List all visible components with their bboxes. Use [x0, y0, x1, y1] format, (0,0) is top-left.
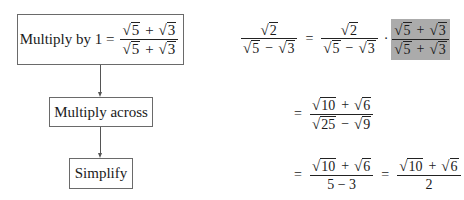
radicand: 6 [362, 158, 371, 174]
step-label: Simplify [75, 165, 128, 182]
step-label: Multiply across [54, 104, 148, 121]
radical-sign: √ [122, 41, 130, 57]
radical-sign: √ [354, 97, 362, 113]
original-fraction: √2 √5 − √3 [241, 22, 297, 57]
square-root: √3 [278, 40, 295, 56]
equals-sign: = [294, 167, 302, 183]
square-root: √10 [312, 97, 336, 113]
numerator: √2 [339, 22, 360, 38]
operator: + [145, 40, 153, 58]
operator: + [341, 157, 349, 175]
radical-sign: √ [429, 22, 437, 38]
denominator: √5 + √3 [120, 40, 178, 58]
square-root: √3 [159, 22, 177, 38]
radicand: 5 [403, 41, 412, 57]
operator: + [417, 21, 425, 39]
square-root: √2 [261, 22, 278, 38]
radicand: 5 [403, 22, 412, 38]
square-root: √6 [354, 97, 371, 113]
step-multiply-by-one: Multiply by 1 = √5 + √3 √5 + √3 [17, 14, 184, 65]
square-root: √9 [354, 116, 371, 132]
radical-sign: √ [159, 41, 167, 57]
radicand: 10 [320, 158, 336, 174]
radicand: 5 [131, 22, 141, 38]
radicand: 3 [167, 22, 177, 38]
equals-sign: = [305, 31, 313, 47]
radicand: 2 [349, 22, 358, 38]
numerator: √10 + √6 [310, 96, 373, 114]
operator: − [341, 115, 349, 133]
square-root: √5 [122, 22, 140, 38]
numerator: √10 + √6 [397, 157, 460, 175]
simplified-fraction: √10 + √6 5 − 3 [310, 157, 373, 194]
radicand: 3 [367, 40, 376, 56]
step-label: Multiply by 1 = [20, 31, 115, 48]
radical-sign: √ [312, 97, 320, 113]
radical-sign: √ [399, 158, 407, 174]
denominator: √5 − √3 [241, 39, 297, 57]
square-root: √10 [399, 158, 423, 174]
operator: + [341, 96, 349, 114]
radicand: 6 [450, 158, 459, 174]
equals-sign: = [294, 106, 302, 122]
radical-sign: √ [394, 22, 402, 38]
connector-line [100, 65, 101, 93]
radicand: 3 [438, 41, 447, 57]
radical-sign: √ [354, 158, 362, 174]
radicand: 10 [407, 158, 423, 174]
operator: + [417, 40, 425, 58]
radicand: 2 [269, 22, 278, 38]
square-root: √5 [394, 41, 411, 57]
final-fraction: √10 + √6 2 [397, 157, 460, 194]
square-root: √2 [341, 22, 358, 38]
square-root: √5 [323, 40, 340, 56]
radical-sign: √ [312, 158, 320, 174]
operator: − [346, 39, 354, 57]
numerator: √5 + √3 [120, 21, 178, 39]
radical-sign: √ [122, 22, 130, 38]
square-root: √3 [429, 41, 446, 57]
equation-line-2: = √10 + √6 √25 − √9 [289, 92, 376, 136]
step-simplify: Simplify [69, 158, 133, 189]
radical-sign: √ [312, 116, 320, 132]
rhs-fraction: √2 √5 − √3 [321, 22, 377, 57]
radical-sign: √ [354, 116, 362, 132]
radicand: 6 [362, 97, 371, 113]
radical-sign: √ [429, 41, 437, 57]
connector-line [100, 127, 101, 154]
radicand: 3 [286, 40, 295, 56]
square-root: √5 [122, 41, 140, 57]
square-root: √6 [441, 158, 458, 174]
denominator: 2 [423, 176, 434, 194]
radicand: 3 [167, 41, 177, 57]
operator: − [265, 39, 273, 57]
multiply-dot: · [384, 31, 389, 47]
radical-sign: √ [243, 40, 251, 56]
numerator: √5 + √3 [392, 21, 448, 39]
square-root: √5 [394, 22, 411, 38]
square-root: √3 [358, 40, 375, 56]
denominator: √25 − √9 [310, 115, 373, 133]
denominator: √5 + √3 [392, 40, 448, 58]
radical-sign: √ [341, 22, 349, 38]
equals-sign: = [381, 167, 389, 183]
operator: + [428, 157, 436, 175]
equation-line-3: = √10 + √6 5 − 3 = √10 + √6 2 [289, 153, 464, 197]
step-multiply-across: Multiply across [49, 97, 153, 127]
square-root: √3 [429, 22, 446, 38]
radical-sign: √ [159, 22, 167, 38]
denominator: √5 − √3 [321, 39, 377, 57]
radical-sign: √ [394, 41, 402, 57]
radical-sign: √ [441, 158, 449, 174]
radical-sign: √ [278, 40, 286, 56]
highlighted-conjugate: √5 + √3 √5 + √3 [391, 19, 449, 60]
square-root: √5 [243, 40, 260, 56]
radicand: 3 [438, 22, 447, 38]
radical-sign: √ [323, 40, 331, 56]
denominator: 5 − 3 [325, 176, 358, 194]
square-root: √6 [354, 158, 371, 174]
radical-sign: √ [261, 22, 269, 38]
numerator: √10 + √6 [310, 157, 373, 175]
radicand: 9 [362, 116, 371, 132]
radicand: 25 [320, 116, 336, 132]
